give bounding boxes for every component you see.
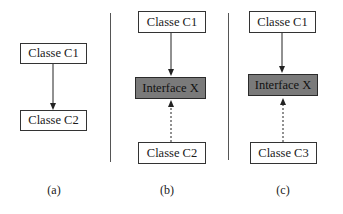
box-label: Classe C1 <box>257 15 307 30</box>
box-label: Interface X <box>142 81 199 96</box>
panel-a-classe-c1: Classe C1 <box>20 43 87 64</box>
box-label: Classe C1 <box>28 46 78 61</box>
panel-b-caption: (b) <box>160 183 174 198</box>
panel-c-interface-x: Interface X <box>248 74 318 96</box>
box-label: Classe C2 <box>147 146 197 161</box>
panel-b-classe-c2: Classe C2 <box>138 142 206 164</box>
panel-c-classe-c3: Classe C3 <box>250 142 317 164</box>
box-label: Classe C2 <box>28 113 78 128</box>
panel-a-classe-c2: Classe C2 <box>20 110 87 131</box>
panel-c-caption: (c) <box>276 183 289 198</box>
panel-a-caption: (a) <box>47 183 60 198</box>
box-label: Classe C1 <box>147 15 197 30</box>
panel-b-interface-x: Interface X <box>135 77 206 99</box>
panel-c-classe-c1: Classe C1 <box>249 11 316 33</box>
panel-b-classe-c1: Classe C1 <box>138 11 206 33</box>
box-label: Interface X <box>255 78 312 93</box>
box-label: Classe C3 <box>258 146 308 161</box>
